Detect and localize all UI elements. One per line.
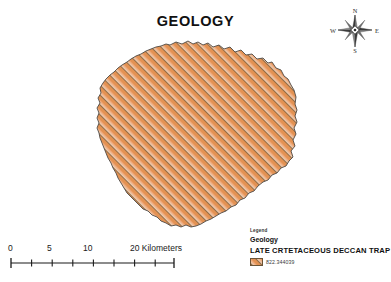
scale-bar-ticks [10,257,175,269]
map-canvas: GEOLOGY N E S W [0,0,391,282]
scale-label-5: 5 [47,243,52,253]
compass-east-label: E [375,27,379,34]
scale-label-0: 0 [8,243,13,253]
compass-south-label: S [353,47,357,54]
scale-label-20-kilometers: 20 Kilometers [130,243,182,253]
scale-label-10: 10 [83,243,92,253]
legend-value: 822.344039 [266,259,294,265]
scale-bar-labels: 0 5 10 20 Kilometers [10,243,190,255]
compass-west-label: W [330,27,337,34]
scale-bar[interactable]: 0 5 10 20 Kilometers [10,243,190,273]
legend-heading: Geology [250,236,390,243]
compass-star-icon [338,15,372,47]
legend-class-label: LATE CRTETACEOUS DECCAN TRAP [250,246,390,255]
legend-swatch-icon [250,258,263,266]
deccan-trap-polygon[interactable] [97,41,297,227]
legend-item[interactable]: 822.344039 [250,258,390,266]
compass-rose[interactable]: N E S W [327,4,383,56]
legend[interactable]: Legend Geology LATE CRTETACEOUS DECCAN T… [250,228,390,266]
compass-north-label: N [353,7,358,14]
legend-kicker: Legend [250,228,390,233]
